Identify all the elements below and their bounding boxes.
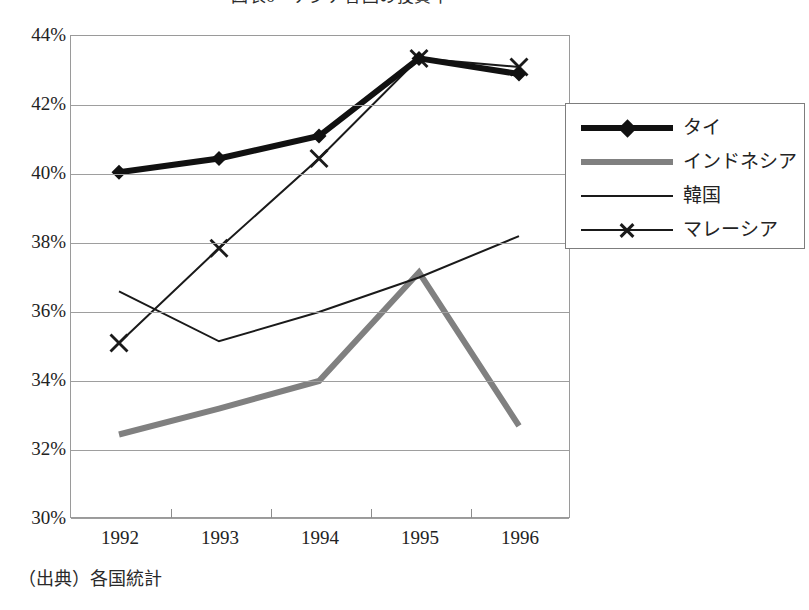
y-axis-tick-label: 42% (4, 94, 66, 113)
gridline (71, 381, 569, 382)
x-axis-tick (271, 509, 272, 518)
x-axis-tick (371, 509, 372, 518)
x-axis-tick-label: 1993 (170, 527, 270, 549)
chart-screenshot: 図表6 アジア各国の投資率 30%32%34%36%38%40%42%44% 1… (0, 0, 809, 610)
y-axis-tick-label: 30% (4, 508, 66, 527)
legend-item[interactable]: インドネシア (566, 145, 804, 179)
gridline (71, 243, 569, 244)
x-axis-tick-label: 1996 (470, 527, 570, 549)
x-axis-tick-label: 1994 (270, 527, 370, 549)
legend-key (579, 149, 675, 175)
legend-item[interactable]: マレーシア (566, 213, 804, 247)
y-axis-tick-label: 36% (4, 301, 66, 320)
y-axis-tick-label: 38% (4, 232, 66, 251)
y-axis-tick-label: 44% (4, 25, 66, 44)
gridline (71, 174, 569, 175)
legend-item[interactable]: 韓国 (566, 179, 804, 213)
series-3 (119, 236, 519, 341)
x-axis-tick (171, 509, 172, 518)
diamond-marker (512, 66, 527, 81)
legend-key (579, 183, 675, 209)
legend-label: 韓国 (683, 186, 721, 206)
x-axis-tick (471, 509, 472, 518)
diamond-marker (212, 151, 227, 166)
y-axis-tick-label: 34% (4, 370, 66, 389)
legend-item[interactable]: タイ (566, 111, 804, 145)
legend-line-swatch (581, 159, 673, 165)
chart-title: 図表6 アジア各国の投資率 (0, 0, 680, 7)
series-4 (111, 50, 528, 352)
x-axis-tick-label: 1995 (370, 527, 470, 549)
gridline (71, 105, 569, 106)
legend-key (579, 115, 675, 141)
diamond-marker-icon (618, 119, 636, 137)
y-axis-tick-label: 40% (4, 163, 66, 182)
plot-area (70, 35, 570, 518)
source-note: （出典）各国統計 (18, 568, 162, 590)
series-line (119, 58, 519, 172)
legend-label: タイ (683, 118, 721, 138)
y-axis-tick-label: 32% (4, 439, 66, 458)
series-line (119, 236, 519, 341)
x-marker-icon (618, 221, 636, 239)
series-2 (119, 272, 519, 434)
diamond-marker (112, 165, 127, 180)
gridline (71, 518, 569, 519)
gridline (71, 450, 569, 451)
legend-label: マレーシア (683, 220, 778, 240)
series-line (119, 272, 519, 434)
chart-legend: タイインドネシア韓国マレーシア (565, 103, 805, 249)
legend-label: インドネシア (683, 152, 797, 172)
x-axis-tick-label: 1992 (70, 527, 170, 549)
legend-line-swatch (581, 195, 673, 197)
series-layer (71, 36, 571, 519)
legend-key (579, 217, 675, 243)
y-axis-label-group: 30%32%34%36%38%40%42%44% (0, 0, 66, 610)
series-line (119, 58, 519, 343)
gridline (71, 312, 569, 313)
